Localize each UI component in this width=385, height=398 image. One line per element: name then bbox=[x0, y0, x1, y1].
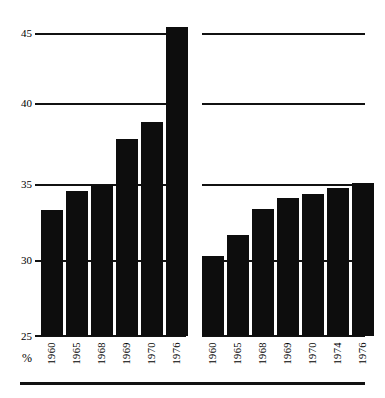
bar-left-1968 bbox=[91, 185, 113, 337]
x-label-left-1976: 1976 bbox=[172, 342, 183, 365]
bar-chart: 45 40 35 30 25 1960 1965 1968 1969 bbox=[0, 0, 385, 398]
x-label-right-1976: 1976 bbox=[358, 342, 369, 365]
bar-right-1969 bbox=[277, 198, 299, 336]
x-label-left-1969: 1969 bbox=[122, 342, 133, 365]
x-label-right-1974: 1974 bbox=[333, 342, 344, 365]
gridline-left-35 bbox=[41, 184, 186, 186]
y-tick-label-35: 35 bbox=[10, 179, 32, 190]
y-tick-label-40: 40 bbox=[10, 98, 32, 109]
y-axis-unit-label: % bbox=[22, 352, 32, 364]
bar-left-1969 bbox=[116, 139, 138, 336]
bar-right-1974 bbox=[327, 188, 349, 337]
x-label-right-1968: 1968 bbox=[258, 342, 269, 365]
gridline-left-45 bbox=[41, 33, 186, 35]
bar-left-1965 bbox=[66, 191, 88, 336]
bar-right-1970 bbox=[302, 194, 324, 336]
y-tick-label-30: 30 bbox=[10, 255, 32, 266]
x-label-left-1965: 1965 bbox=[72, 342, 83, 365]
bar-right-1960 bbox=[202, 256, 224, 336]
gridline-left-40 bbox=[41, 103, 186, 105]
x-label-right-1969: 1969 bbox=[283, 342, 294, 365]
x-label-right-1965: 1965 bbox=[233, 342, 244, 365]
gridline-right-45 bbox=[202, 33, 365, 35]
bar-left-1970 bbox=[141, 122, 163, 336]
bar-right-1976 bbox=[352, 183, 374, 336]
x-label-right-1970: 1970 bbox=[308, 342, 319, 365]
bar-left-1976 bbox=[166, 27, 188, 336]
x-label-left-1960: 1960 bbox=[47, 342, 58, 365]
x-label-left-1968: 1968 bbox=[97, 342, 108, 365]
bottom-rule bbox=[20, 382, 365, 385]
gridline-right-35 bbox=[202, 184, 365, 186]
x-label-right-1960: 1960 bbox=[208, 342, 219, 365]
y-tick-label-45: 45 bbox=[10, 28, 32, 39]
y-tick-label-25: 25 bbox=[10, 331, 32, 342]
bar-right-1965 bbox=[227, 235, 249, 337]
bar-right-1968 bbox=[252, 209, 274, 336]
x-label-left-1970: 1970 bbox=[147, 342, 158, 365]
bar-left-1960 bbox=[41, 210, 63, 336]
gridline-right-40 bbox=[202, 103, 365, 105]
